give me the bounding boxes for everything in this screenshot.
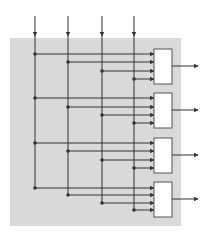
block-2 — [154, 93, 172, 128]
junction-dot — [100, 113, 104, 117]
junction-dot — [33, 186, 37, 190]
junction-dot — [66, 105, 70, 109]
junction-dot — [100, 69, 104, 73]
block-1 — [154, 49, 172, 84]
junction-dot — [33, 141, 37, 145]
junction-dot — [132, 77, 136, 81]
junction-dot — [33, 96, 37, 100]
junction-dot — [66, 60, 70, 64]
junction-dot — [100, 158, 104, 162]
multiplexer-network-diagram — [0, 0, 209, 236]
junction-dot — [66, 193, 70, 197]
junction-dot — [132, 121, 136, 125]
junction-dot — [132, 166, 136, 170]
junction-dot — [33, 52, 37, 56]
junction-dot — [100, 201, 104, 205]
block-3 — [154, 138, 172, 173]
junction-dot — [66, 149, 70, 153]
junction-dot — [132, 208, 136, 212]
block-4 — [154, 182, 172, 217]
